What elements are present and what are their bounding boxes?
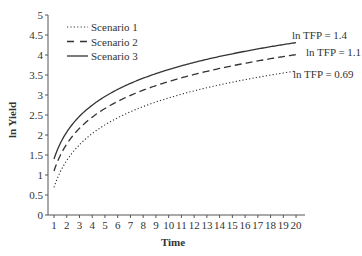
x-tick-label: 10 (163, 219, 175, 231)
x-tick-label: 15 (227, 219, 239, 231)
series-annotation: ln TFP = 1.1 (306, 46, 361, 58)
x-tick-label: 14 (214, 219, 226, 231)
y-tick-label: 3.5 (29, 69, 43, 81)
x-tick-label: 16 (240, 219, 252, 231)
series-annotations: ln TFP = 0.69ln TFP = 1.1ln TFP = 1.4 (292, 29, 361, 80)
x-tick-label: 2 (64, 219, 70, 231)
x-tick-label: 6 (115, 219, 121, 231)
y-tick-label: 1.5 (29, 149, 43, 161)
legend-label: Scenario 2 (91, 36, 138, 48)
series-line-scenario-1 (54, 71, 296, 187)
x-tick-label: 18 (265, 219, 277, 231)
line-chart: 00.511.522.533.544.551234567891011121314… (0, 0, 362, 256)
x-tick-label: 11 (176, 219, 187, 231)
x-tick-label: 4 (89, 219, 95, 231)
y-tick-label: 5 (38, 9, 44, 21)
x-tick-label: 8 (140, 219, 146, 231)
series-line-scenario-2 (54, 55, 296, 171)
x-tick-label: 20 (291, 219, 303, 231)
y-tick-label: 1 (38, 169, 44, 181)
x-tick-label: 19 (278, 219, 290, 231)
x-tick-label: 1 (51, 219, 57, 231)
y-tick-label: 4.5 (29, 29, 43, 41)
x-tick-label: 9 (153, 219, 159, 231)
x-tick-label: 17 (252, 219, 264, 231)
y-tick-label: 3 (38, 89, 44, 101)
series-lines (54, 43, 296, 188)
x-tick-label: 12 (189, 219, 200, 231)
y-tick-label: 0.5 (29, 189, 43, 201)
x-tick-label: 3 (77, 219, 83, 231)
legend: Scenario 1Scenario 2Scenario 3 (67, 21, 138, 62)
x-axis-title: Time (161, 236, 185, 248)
y-tick-label: 4 (38, 49, 44, 61)
y-axis-title: ln Yield (6, 102, 18, 138)
series-annotation: ln TFP = 1.4 (292, 29, 348, 41)
x-tick-label: 7 (128, 219, 134, 231)
y-tick-label: 2.5 (29, 109, 43, 121)
x-tick-label: 5 (102, 219, 108, 231)
legend-label: Scenario 1 (91, 21, 138, 33)
y-tick-label: 2 (38, 129, 44, 141)
x-tick-label: 13 (201, 219, 213, 231)
series-annotation: ln TFP = 0.69 (293, 68, 354, 80)
legend-label: Scenario 3 (91, 50, 138, 62)
y-tick-label: 0 (38, 209, 44, 221)
axes: 00.511.522.533.544.551234567891011121314… (29, 9, 305, 231)
